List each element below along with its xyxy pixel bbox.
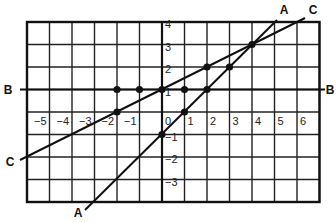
coordinate-grid-diagram: −5−4−3−2−101234564321−1−2−3 AABBCC [0,0,336,222]
data-point [226,63,233,70]
x-tick-label: 2 [210,115,216,127]
data-point [203,86,210,93]
x-tick-label: −1 [124,115,137,127]
y-tick-label: −2 [165,153,178,165]
line-c-label-start: C [6,155,15,169]
y-tick-label: 3 [165,41,171,53]
data-point [136,86,143,93]
y-tick-label: −3 [165,176,178,188]
x-tick-label: 4 [255,115,261,127]
x-tick-label: 1 [188,115,194,127]
data-point [181,108,188,115]
y-tick-label: 2 [165,63,171,75]
x-tick-label: 6 [300,115,306,127]
y-tick-label: −1 [165,131,178,143]
x-tick-label: 3 [233,115,239,127]
data-point [203,63,210,70]
tick-labels: −5−4−3−2−101234564321−1−2−3 [34,18,306,188]
x-tick-label: −5 [34,115,47,127]
line-b-label-end: B [326,83,335,97]
y-tick-label: 4 [165,18,171,30]
data-point [158,131,165,138]
data-point [113,108,120,115]
data-point [181,86,188,93]
data-point [158,86,165,93]
data-point [113,86,120,93]
x-tick-label: −4 [56,115,69,127]
line-b-label-start: B [4,83,13,97]
line-c-label-end: C [309,3,318,17]
data-point [248,41,255,48]
line-a-label-start: A [74,206,83,220]
line-a-label-end: A [280,3,289,17]
x-tick-label: 5 [278,115,284,127]
